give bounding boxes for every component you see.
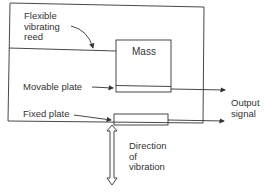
output-line-fixed — [168, 120, 224, 121]
vibration-arrow — [107, 125, 117, 185]
reed-label: Flexible vibrating reed — [24, 11, 60, 43]
flexible-reed — [9, 48, 116, 51]
movable-plate-label: Movable plate — [23, 82, 82, 93]
fixed-plate-leader — [74, 115, 111, 120]
reed-leader — [71, 26, 93, 48]
output-signal-label: Output signal — [231, 98, 260, 119]
movable-plate — [116, 86, 171, 87]
direction-label: Direction of vibration — [129, 141, 167, 173]
movable-plate-leader — [92, 87, 113, 88]
output-line-movable — [171, 89, 225, 90]
fixed-plate-label: Fixed plate — [23, 109, 69, 120]
mass-label: Mass — [132, 47, 156, 58]
fixed-plate — [114, 114, 168, 125]
